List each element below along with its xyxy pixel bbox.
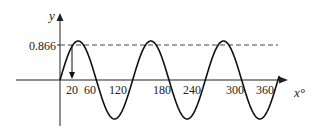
x-tick-label-360: 360 xyxy=(256,83,274,97)
y-axis-arrow-icon xyxy=(57,13,64,21)
x-axis-arrow-icon xyxy=(279,77,288,84)
y-axis-label: y xyxy=(47,8,55,23)
x-tick-label-240: 240 xyxy=(183,83,201,97)
x-tick-label-60: 60 xyxy=(84,83,96,97)
x-axis-label: x° xyxy=(293,85,305,100)
sine-graph: y x° 0.866 20 60 120 180 240 300 360 xyxy=(0,0,321,131)
annotation-arrow-icon xyxy=(69,72,75,79)
x-tick-label-180: 180 xyxy=(153,83,171,97)
x-tick-label-20: 20 xyxy=(66,83,78,97)
y-tick-label-0866: 0.866 xyxy=(29,39,56,53)
x-tick-label-120: 120 xyxy=(109,83,127,97)
x-tick-label-300: 300 xyxy=(226,83,244,97)
